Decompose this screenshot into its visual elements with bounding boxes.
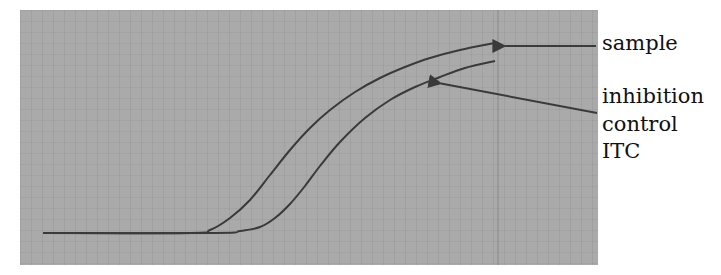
control-label: control (602, 114, 678, 135)
amplification-chart-figure: sample inhibition control ITC (0, 0, 721, 275)
itc-label: ITC (602, 141, 640, 162)
inhibition-control-curve (43, 61, 495, 233)
inhibition-label: inhibition (602, 86, 704, 107)
sample-label: sample (602, 33, 678, 54)
inhibition-arrow-icon (441, 84, 597, 113)
sample-curve (43, 43, 495, 233)
